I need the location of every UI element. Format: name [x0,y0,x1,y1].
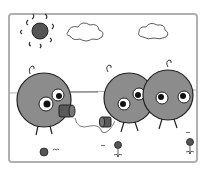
illustration [0,0,208,176]
tin-can-left-icon [59,105,75,117]
tin-can-right-icon [100,117,112,127]
